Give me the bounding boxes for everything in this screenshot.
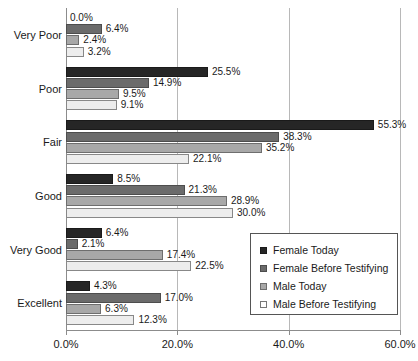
bar-row: 14.9% — [66, 78, 400, 88]
bar — [66, 132, 279, 142]
bar — [66, 304, 101, 314]
bar-value-label: 25.5% — [212, 67, 240, 77]
bar-row: 25.5% — [66, 67, 400, 77]
bar-value-label: 38.3% — [283, 132, 311, 142]
legend-item[interactable]: Male Before Testifying — [260, 295, 397, 313]
legend-items: Female TodayFemale Before TestifyingMale… — [260, 241, 397, 313]
category-label: Good — [0, 190, 62, 202]
x-tick-label: 20.0% — [162, 338, 193, 350]
bar-group: 8.5%21.3%28.9%30.0% — [66, 169, 400, 223]
legend-item[interactable]: Female Before Testifying — [260, 259, 397, 277]
bar-row: 21.3% — [66, 185, 400, 195]
x-tick — [177, 330, 178, 335]
bar-group: 0.0%6.4%2.4%3.2% — [66, 8, 400, 62]
bar-value-label: 14.9% — [153, 78, 181, 88]
bar-group: 25.5%14.9%9.5%9.1% — [66, 62, 400, 116]
bar-row: 9.5% — [66, 89, 400, 99]
legend-swatch-icon — [260, 247, 267, 254]
bar-row: 35.2% — [66, 143, 400, 153]
bar — [66, 24, 102, 34]
bar-value-label: 2.4% — [83, 35, 106, 45]
bar — [66, 250, 163, 260]
bar-value-label: 17.4% — [167, 250, 195, 260]
legend-item[interactable]: Female Today — [260, 241, 397, 259]
bar — [66, 100, 117, 110]
x-tick — [66, 330, 67, 335]
bar-value-label: 2.1% — [82, 239, 105, 249]
legend-swatch-icon — [260, 283, 267, 290]
bar — [66, 47, 84, 57]
bar-row: 2.4% — [66, 35, 400, 45]
legend-label: Female Today — [273, 245, 339, 256]
bar-value-label: 17.0% — [165, 293, 193, 303]
legend-label: Male Before Testifying — [273, 299, 376, 310]
x-tick-label: 40.0% — [273, 338, 304, 350]
chart-legend: Female TodayFemale Before TestifyingMale… — [250, 233, 398, 315]
gridline-600 — [400, 8, 401, 330]
bar — [66, 120, 374, 130]
bar-value-label: 6.4% — [106, 24, 129, 34]
bar-value-label: 4.3% — [94, 281, 117, 291]
bar — [66, 143, 262, 153]
bar-row: 38.3% — [66, 132, 400, 142]
bar — [66, 196, 227, 206]
x-tick — [289, 330, 290, 335]
bar-value-label: 22.1% — [193, 154, 221, 164]
bar — [66, 89, 119, 99]
bar — [66, 154, 189, 164]
x-axis-line — [66, 330, 400, 331]
bar-value-label: 0.0% — [70, 13, 93, 23]
bar-value-label: 12.3% — [138, 315, 166, 325]
legend-item[interactable]: Male Today — [260, 277, 397, 295]
legend-swatch-icon — [260, 301, 267, 308]
bar — [66, 174, 113, 184]
bar-row: 28.9% — [66, 196, 400, 206]
legend-label: Male Today — [273, 281, 327, 292]
category-label: Very Poor — [0, 29, 62, 41]
bar-value-label: 3.2% — [88, 47, 111, 57]
bar-value-label: 6.4% — [106, 228, 129, 238]
bar-value-label: 6.3% — [105, 304, 128, 314]
bar-value-label: 9.5% — [123, 89, 146, 99]
bar-row: 6.4% — [66, 24, 400, 34]
category-label: Very Good — [0, 244, 62, 256]
bar-row: 9.1% — [66, 100, 400, 110]
bar — [66, 208, 233, 218]
grouped-bar-chart: 0.0%6.4%2.4%3.2%25.5%14.9%9.5%9.1%55.3%3… — [0, 0, 418, 361]
legend-swatch-icon — [260, 265, 267, 272]
legend-label: Female Before Testifying — [273, 263, 388, 274]
bar-row: 55.3% — [66, 120, 400, 130]
bar-row: 22.1% — [66, 154, 400, 164]
bar — [66, 228, 102, 238]
bar-value-label: 21.3% — [189, 185, 217, 195]
x-tick-label: 0.0% — [53, 338, 78, 350]
bar — [66, 35, 79, 45]
bar-value-label: 22.5% — [195, 261, 223, 271]
bar — [66, 239, 78, 249]
bar — [66, 261, 191, 271]
bar-row: 12.3% — [66, 315, 400, 325]
bar — [66, 78, 149, 88]
category-label: Poor — [0, 83, 62, 95]
bar-value-label: 35.2% — [266, 143, 294, 153]
bar-row: 0.0% — [66, 13, 400, 23]
bar-value-label: 28.9% — [231, 196, 259, 206]
bar-row: 3.2% — [66, 47, 400, 57]
bar — [66, 293, 161, 303]
bar-value-label: 9.1% — [121, 100, 144, 110]
bar-value-label: 55.3% — [378, 120, 406, 130]
bar — [66, 67, 208, 77]
bar-group: 55.3%38.3%35.2%22.1% — [66, 115, 400, 169]
bar-row: 8.5% — [66, 174, 400, 184]
bar-value-label: 8.5% — [117, 174, 140, 184]
bar — [66, 315, 134, 325]
x-tick — [400, 330, 401, 335]
x-tick-label: 60.0% — [384, 338, 415, 350]
category-label: Fair — [0, 136, 62, 148]
bar-value-label: 30.0% — [237, 208, 265, 218]
bar — [66, 185, 185, 195]
bar-row: 30.0% — [66, 208, 400, 218]
bar — [66, 281, 90, 291]
category-label: Excellent — [0, 297, 62, 309]
